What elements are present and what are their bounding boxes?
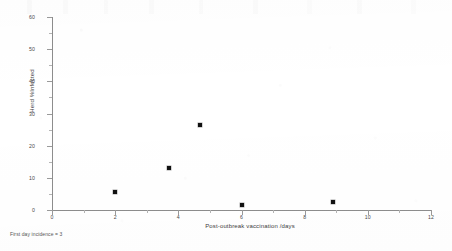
data-point-marker	[198, 123, 202, 127]
data-point-marker	[331, 200, 335, 204]
data-point-marker	[240, 203, 244, 207]
data-point-marker	[167, 166, 171, 170]
data-point-marker	[113, 190, 117, 194]
plot-area	[0, 0, 452, 251]
scatter-chart-figure: 0102030405060024681012 Herd %Infected Po…	[0, 0, 452, 251]
